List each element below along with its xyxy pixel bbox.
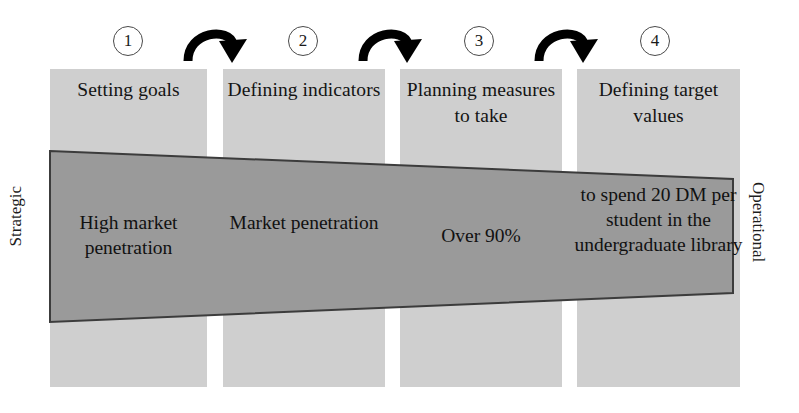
phase-header-3: Planning measures to take bbox=[400, 77, 562, 129]
diagram-canvas: Setting goals Defining indicators Planni… bbox=[0, 0, 799, 413]
example-text-3: Over 90% bbox=[400, 223, 562, 248]
phase-header-4: Defining target values bbox=[577, 77, 740, 129]
step-number-circle-2: 2 bbox=[288, 26, 318, 56]
example-text-2: Market penetration bbox=[223, 210, 385, 235]
step-number-circle-4: 4 bbox=[640, 26, 670, 56]
phase-header-1: Setting goals bbox=[50, 77, 207, 103]
step-number-circle-3: 3 bbox=[464, 26, 494, 56]
arrow-step-3-to-4-icon bbox=[534, 17, 600, 65]
phase-header-2: Defining indicators bbox=[223, 77, 385, 103]
step-number-circle-1: 1 bbox=[113, 26, 143, 56]
example-text-1: High market penetration bbox=[50, 210, 207, 260]
example-text-4: to spend 20 DM per student in the underg… bbox=[574, 182, 743, 257]
step-number-label-1: 1 bbox=[124, 31, 133, 51]
axis-label-strategic: Strategic bbox=[6, 186, 26, 246]
step-number-label-3: 3 bbox=[475, 31, 484, 51]
arrow-step-2-to-3-icon bbox=[358, 17, 424, 65]
step-number-label-2: 2 bbox=[299, 31, 308, 51]
step-number-label-4: 4 bbox=[651, 31, 660, 51]
arrow-step-1-to-2-icon bbox=[183, 17, 249, 65]
axis-label-operational: Operational bbox=[748, 182, 768, 262]
